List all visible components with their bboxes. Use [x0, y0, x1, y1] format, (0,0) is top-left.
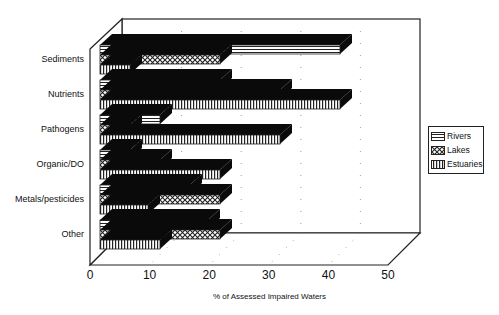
legend-item: Lakes — [431, 143, 481, 157]
legend: RiversLakesEstuaries — [428, 126, 484, 174]
legend-label: Estuaries — [447, 159, 482, 169]
category-label: Other — [61, 229, 84, 239]
category-label: Sediments — [41, 54, 84, 64]
x-tick-label: 30 — [262, 268, 275, 282]
x-tick-label: 20 — [203, 268, 216, 282]
legend-item: Estuaries — [431, 157, 481, 171]
legend-swatch-icon — [431, 132, 445, 141]
x-tick-label: 0 — [87, 268, 94, 282]
category-label: Nutrients — [48, 89, 84, 99]
category-label: Organic/DO — [36, 159, 84, 169]
category-label: Metals/pesticides — [15, 194, 84, 204]
legend-swatch-icon — [431, 146, 445, 155]
legend-item: Rivers — [431, 129, 481, 143]
bar — [100, 229, 172, 249]
chart-area — [0, 0, 499, 315]
legend-swatch-icon — [431, 160, 445, 169]
x-axis-title: % of Assessed Impaired Waters — [0, 292, 499, 301]
category-label: Pathogens — [41, 124, 84, 134]
x-tick-label: 10 — [143, 268, 156, 282]
x-tick-label: 40 — [322, 268, 335, 282]
legend-label: Lakes — [447, 145, 470, 155]
legend-label: Rivers — [447, 131, 471, 141]
x-tick-label: 50 — [381, 268, 394, 282]
